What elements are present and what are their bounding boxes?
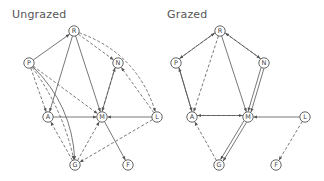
edge-grazed-N-M — [248, 68, 261, 112]
edge-ungrazed-G-A — [51, 122, 73, 160]
edge-grazed-R-P — [180, 33, 215, 59]
edge-grazed-M-G — [221, 121, 244, 160]
edge-ungrazed-R-L — [79, 33, 155, 112]
node-ungrazed-A: A — [43, 112, 53, 122]
node-label: R — [72, 27, 77, 35]
edge-grazed-R-M — [222, 36, 247, 112]
node-grazed-R: R — [215, 26, 225, 36]
node-label: P — [27, 59, 31, 67]
edge-ungrazed-P-A — [31, 68, 46, 112]
edge-ungrazed-G-M — [78, 122, 100, 160]
node-ungrazed-M: M — [97, 112, 107, 122]
node-ungrazed-G: G — [70, 160, 80, 170]
edge-ungrazed-L-G — [80, 120, 153, 162]
edge-ungrazed-P-G — [33, 67, 75, 160]
edge-grazed-A-P — [179, 68, 192, 112]
edge-grazed-M-G — [223, 122, 246, 161]
edge-grazed-G-A — [195, 122, 217, 160]
node-label: N — [116, 59, 121, 67]
network-diagram: RPNAMLGFRPNAMLGF — [0, 0, 324, 181]
node-label: P — [174, 59, 178, 67]
node-label: R — [218, 27, 223, 35]
node-label: G — [72, 161, 77, 169]
node-grazed-N: N — [259, 58, 269, 68]
edge-grazed-R-A — [194, 36, 219, 112]
node-label: F — [126, 161, 130, 169]
edge-ungrazed-P-R — [33, 34, 69, 60]
nodes-layer: RPNAMLGFRPNAMLGF — [24, 26, 310, 170]
node-grazed-G: G — [214, 160, 224, 170]
node-ungrazed-P: P — [24, 58, 34, 68]
edge-ungrazed-M-F — [104, 122, 125, 160]
node-ungrazed-R: R — [69, 26, 79, 36]
node-label: A — [190, 113, 195, 121]
node-label: A — [46, 113, 51, 121]
edges-layer — [31, 33, 303, 162]
node-grazed-A: A — [187, 112, 197, 122]
edge-ungrazed-R-A — [50, 36, 73, 112]
node-label: G — [216, 161, 221, 169]
node-label: F — [274, 161, 278, 169]
node-grazed-L: L — [300, 112, 310, 122]
node-label: N — [262, 59, 267, 67]
node-label: L — [303, 113, 307, 121]
edge-ungrazed-P-G — [32, 67, 74, 159]
edge-grazed-N-R — [225, 33, 260, 59]
edge-grazed-N-M — [251, 68, 264, 112]
node-grazed-P: P — [171, 58, 181, 68]
node-label: M — [245, 113, 251, 121]
node-ungrazed-F: F — [123, 160, 133, 170]
node-label: L — [155, 113, 159, 121]
node-ungrazed-N: N — [113, 58, 123, 68]
node-label: M — [99, 113, 105, 121]
edge-grazed-L-F — [279, 121, 302, 160]
node-grazed-F: F — [271, 160, 281, 170]
edge-ungrazed-L-N — [121, 68, 154, 113]
node-grazed-M: M — [243, 112, 253, 122]
node-ungrazed-L: L — [152, 112, 162, 122]
